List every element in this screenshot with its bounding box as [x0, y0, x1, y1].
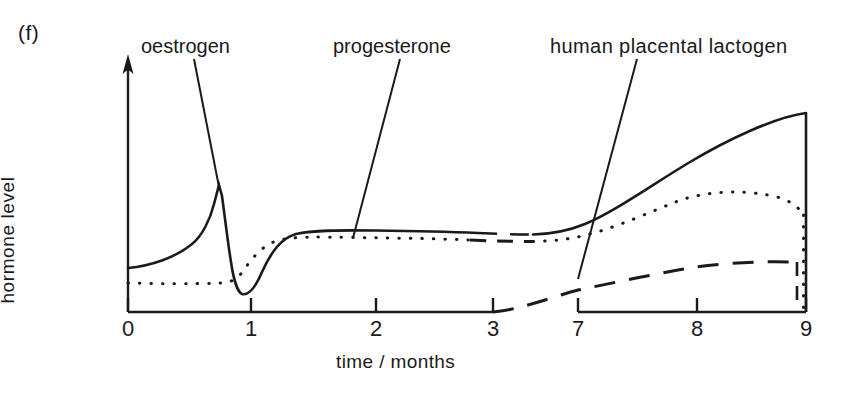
x-tick-label-3: 3 [478, 318, 508, 340]
annotation-human-placental-lactogen: human placental lactogen [550, 36, 788, 56]
x-tick-label-9: 9 [791, 318, 821, 340]
axes [123, 54, 807, 312]
annotation-leader-lines [194, 59, 637, 279]
y-axis-title: hormone level [0, 150, 17, 330]
series-human-placental-lactogen [493, 262, 797, 312]
annotation-progesterone: progesterone [333, 36, 451, 56]
oestrogen-leader-line [194, 59, 219, 187]
series-oestrogen [128, 113, 806, 312]
progesterone-leader-line [353, 59, 400, 238]
hpl-curve [493, 262, 790, 312]
annotation-oestrogen: oestrogen [141, 36, 230, 56]
x-axis-title: time / months [336, 352, 455, 371]
x-tick-label-7: 7 [563, 318, 593, 340]
figure-panel: (f) oestrogen progesterone human placent… [0, 0, 841, 396]
x-tick-label-8: 8 [682, 318, 712, 340]
x-tick-label-2: 2 [361, 318, 391, 340]
x-tick-label-0: 0 [113, 318, 143, 340]
progesterone-curve-left [128, 237, 470, 284]
x-tick-label-1: 1 [236, 318, 266, 340]
panel-label: (f) [18, 22, 39, 43]
hpl-leader-line [578, 59, 637, 279]
oestrogen-curve-right [533, 113, 806, 235]
progesterone-curve-break [470, 240, 533, 242]
oestrogen-curve-left [128, 185, 478, 294]
progesterone-curve-right [533, 192, 803, 241]
oestrogen-curve-break [478, 233, 533, 235]
